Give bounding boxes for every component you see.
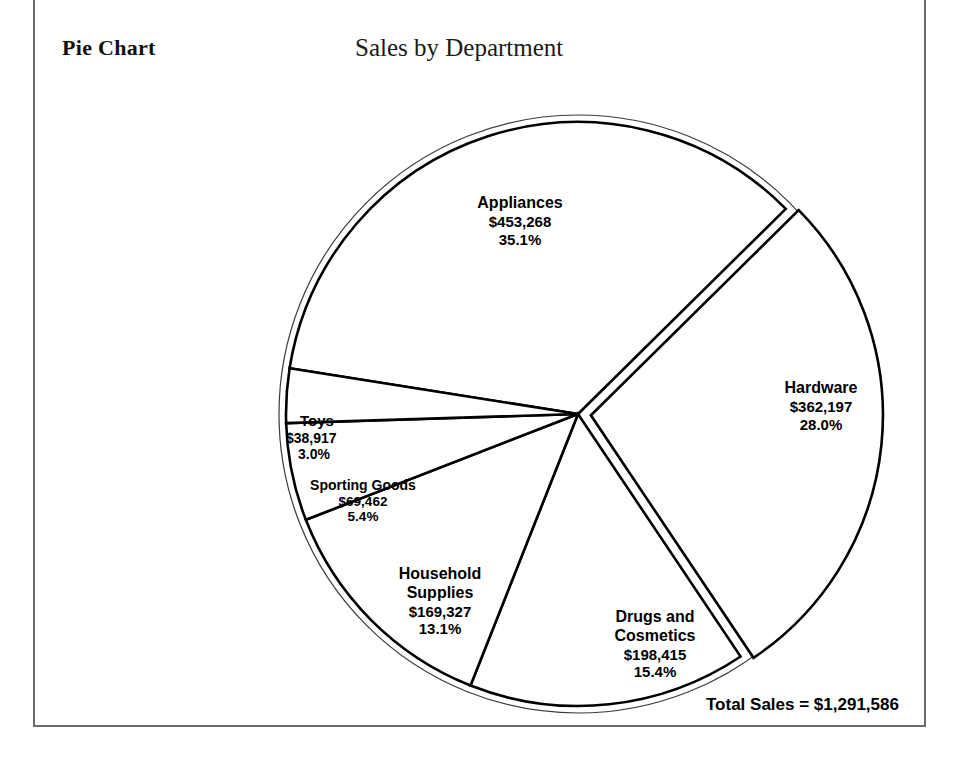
slice-name-household-supplies-line2: Supplies	[373, 584, 507, 603]
slice-value-household-supplies: $169,327	[373, 603, 507, 621]
slice-name-drugs-and-cosmetics-line1: Drugs and	[587, 608, 723, 627]
slice-label-sporting-goods: Sporting Goods $69,462 5.4%	[297, 477, 429, 525]
slice-name-hardware: Hardware	[761, 379, 881, 398]
pie-chart-figure: Pie Chart Sales by Department Appliances…	[0, 0, 961, 758]
slice-value-toys: $38,917	[286, 430, 337, 447]
slice-label-appliances: Appliances $453,268 35.1%	[448, 194, 592, 248]
slice-name-toys: Toys	[296, 412, 337, 430]
slice-value-hardware: $362,197	[761, 398, 881, 416]
slice-percent-household-supplies: 13.1%	[373, 620, 507, 638]
slice-value-drugs-and-cosmetics: $198,415	[587, 646, 723, 664]
slice-percent-sporting-goods: 5.4%	[297, 509, 429, 525]
slice-percent-appliances: 35.1%	[448, 231, 592, 249]
slice-value-appliances: $453,268	[448, 213, 592, 231]
slice-percent-hardware: 28.0%	[761, 416, 881, 434]
slice-name-sporting-goods: Sporting Goods	[297, 477, 429, 494]
page-root: Pie Chart Sales by Department Appliances…	[0, 0, 961, 758]
slice-name-household-supplies-line1: Household	[373, 565, 507, 584]
slice-value-sporting-goods: $69,462	[297, 494, 429, 510]
slice-label-hardware: Hardware $362,197 28.0%	[761, 379, 881, 433]
slice-label-drugs-and-cosmetics: Drugs and Cosmetics $198,415 15.4%	[587, 608, 723, 681]
slice-name-drugs-and-cosmetics-line2: Cosmetics	[587, 627, 723, 646]
slice-name-appliances: Appliances	[448, 194, 592, 213]
total-sales-label: Total Sales = $1,291,586	[706, 695, 899, 715]
slice-label-household-supplies: Household Supplies $169,327 13.1%	[373, 565, 507, 638]
slice-percent-drugs-and-cosmetics: 15.4%	[587, 663, 723, 681]
slice-label-toys: Toys $38,917 3.0%	[296, 412, 337, 463]
slice-percent-toys: 3.0%	[296, 446, 337, 463]
